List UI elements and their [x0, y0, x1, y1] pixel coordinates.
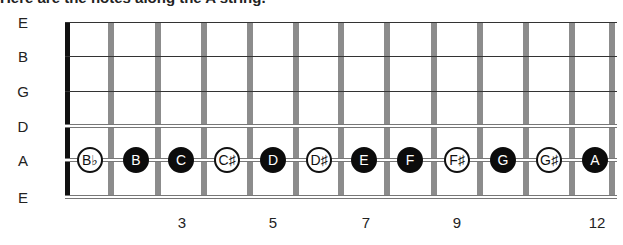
note-marker: F♯ — [444, 147, 470, 173]
fret-wire — [338, 22, 344, 197]
note-marker: C♯ — [214, 147, 240, 173]
fret-wire — [523, 22, 529, 197]
fret-number: 5 — [269, 214, 277, 231]
caption-text: Here are the notes along the A string. — [0, 0, 266, 6]
string-label: E — [15, 189, 31, 206]
fret-number: 7 — [362, 214, 370, 231]
fret-wire — [155, 22, 161, 197]
fret-wire — [609, 22, 615, 197]
note-marker: E — [351, 147, 377, 173]
string-label: G — [15, 83, 31, 100]
nut — [65, 22, 70, 197]
string-line — [65, 124, 617, 128]
fret-wire — [247, 22, 253, 197]
fret-wire — [569, 22, 575, 197]
string-line — [65, 22, 617, 23]
note-marker: B♭ — [77, 147, 103, 173]
note-marker: F — [397, 147, 423, 173]
fret-wire — [108, 22, 114, 197]
string-line — [65, 56, 617, 57]
string-label: A — [15, 152, 31, 169]
fret-wire — [431, 22, 437, 197]
note-marker: B — [123, 147, 149, 173]
fret-number: 12 — [589, 214, 606, 231]
fret-wire — [293, 22, 299, 197]
note-marker: G♯ — [536, 147, 562, 173]
note-marker: D — [260, 147, 286, 173]
note-marker: C — [168, 147, 194, 173]
string-label: D — [15, 118, 31, 135]
string-line — [65, 195, 617, 199]
note-marker: A — [582, 147, 608, 173]
fret-number: 3 — [178, 214, 186, 231]
string-label: B — [15, 48, 31, 65]
fret-number: 9 — [453, 214, 461, 231]
fret-wire — [201, 22, 207, 197]
fret-wire — [477, 22, 483, 197]
fret-wire — [384, 22, 390, 197]
string-line — [65, 91, 617, 92]
string-label: E — [15, 14, 31, 31]
note-marker: D♯ — [306, 147, 332, 173]
fretboard — [65, 22, 617, 197]
note-marker: G — [490, 147, 516, 173]
